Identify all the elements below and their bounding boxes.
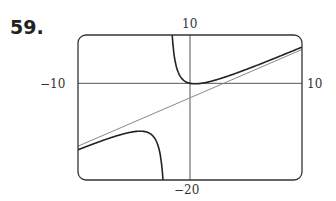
function-left-branch [78,131,166,201]
graph-plot [0,0,336,201]
